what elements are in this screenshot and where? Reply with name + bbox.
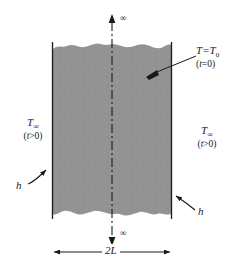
thickness-label: 2L xyxy=(102,244,120,256)
right-ambient-label: T∞ (t>0) xyxy=(186,124,228,150)
initial-condition-line2: (t=0) xyxy=(196,59,219,70)
right-h-arrow xyxy=(176,196,195,210)
left-h-arrow-line xyxy=(28,170,46,184)
infinity-bottom-label: ∞ xyxy=(120,228,126,238)
infinity-top-label: ∞ xyxy=(120,13,126,23)
right-h-arrow-line xyxy=(176,196,195,210)
initial-condition-label: T=T0 (t=0) xyxy=(196,44,219,70)
left-ambient-label: T∞ (t>0) xyxy=(12,116,54,142)
left-convection-coefficient-label: h xyxy=(16,179,22,191)
wall-conduction-diagram: T=T0 (t=0) T∞ (t>0) T∞ (t>0) h h 2L ∞ ∞ xyxy=(0,0,252,268)
initial-condition-line1: T=T0 xyxy=(196,44,219,59)
left-ambient-symbol: T∞ xyxy=(12,116,54,131)
right-ambient-symbol: T∞ xyxy=(186,124,228,139)
centerline-arrow-up xyxy=(109,14,116,23)
left-ambient-condition: (t>0) xyxy=(12,131,54,142)
right-ambient-condition: (t>0) xyxy=(186,139,228,150)
right-convection-coefficient-label: h xyxy=(198,205,204,217)
left-h-arrow xyxy=(28,170,46,184)
